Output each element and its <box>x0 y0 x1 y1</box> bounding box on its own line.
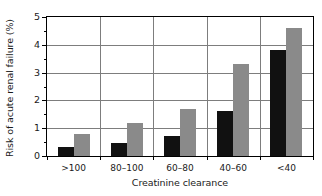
x-axis-tick <box>260 156 261 160</box>
y-gridline <box>47 45 313 46</box>
x-gridline <box>153 17 154 156</box>
y-axis-minor-tick <box>44 87 47 88</box>
bar <box>58 147 74 156</box>
bar <box>74 134 90 156</box>
plot-area: 012345>10080–10060–8040–60<40 <box>46 16 314 157</box>
x-axis-tick-label: <40 <box>277 164 296 173</box>
y-axis-minor-tick <box>44 59 47 60</box>
x-axis-tick <box>100 156 101 160</box>
bar-chart-figure: Risk of acute renal failure (%) 012345>1… <box>0 0 322 196</box>
y-axis-tick <box>42 100 47 101</box>
y-axis-tick <box>42 128 47 129</box>
x-axis-tick-label: 80–100 <box>110 164 143 173</box>
x-axis-tick <box>47 156 48 160</box>
y-axis-tick-label: 3 <box>34 68 40 78</box>
y-axis-tick-label: 4 <box>34 40 40 50</box>
x-axis-tick <box>313 156 314 160</box>
y-axis-minor-tick <box>44 114 47 115</box>
y-axis-tick-label: 2 <box>34 96 40 106</box>
bar <box>180 109 196 156</box>
y-axis-tick <box>42 17 47 18</box>
x-axis-tick <box>207 156 208 160</box>
bar <box>164 136 180 156</box>
bar <box>286 28 302 156</box>
y-axis-tick-label: 5 <box>34 12 40 22</box>
x-axis-tick-label: 40–60 <box>219 164 246 173</box>
y-axis-tick-label: 1 <box>34 123 40 133</box>
bar <box>127 123 143 156</box>
x-gridline <box>260 17 261 156</box>
x-axis-tick-label: >100 <box>61 164 86 173</box>
y-axis-tick <box>42 45 47 46</box>
x-axis-tick-label: 60–80 <box>166 164 193 173</box>
bar <box>217 111 233 156</box>
y-axis-minor-tick <box>44 31 47 32</box>
y-axis-minor-tick <box>44 142 47 143</box>
x-gridline <box>100 17 101 156</box>
bar <box>270 50 286 156</box>
x-axis-tick <box>153 156 154 160</box>
bar <box>111 143 127 156</box>
y-axis-title: Risk of acute renal failure (%) <box>3 8 17 168</box>
y-axis-tick <box>42 73 47 74</box>
x-gridline <box>207 17 208 156</box>
bar <box>233 64 249 156</box>
x-axis-title: Creatinine clearance <box>46 178 314 188</box>
y-axis-tick-label: 0 <box>34 151 40 161</box>
